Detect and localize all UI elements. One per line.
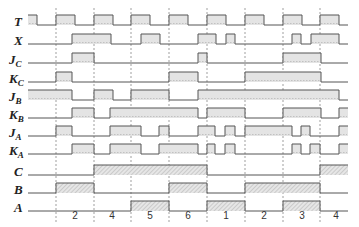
- signal-label-kb: KB: [8, 107, 24, 124]
- signal-label-b: B: [13, 182, 23, 197]
- state-label: 6: [185, 210, 191, 221]
- signal-label-x: X: [13, 33, 23, 48]
- state-label: 2: [261, 210, 267, 221]
- state-label: 5: [147, 210, 153, 221]
- signal-t: [28, 15, 348, 25]
- signal-kc: [28, 72, 348, 82]
- signal-label-t: T: [14, 14, 23, 29]
- signal-c: [28, 165, 348, 175]
- signal-ja: [28, 126, 348, 136]
- pulse-fill: [94, 165, 207, 175]
- pulse-fill: [245, 183, 320, 193]
- signal-label-ka: KA: [8, 143, 24, 160]
- signal-label-jc: JC: [8, 52, 23, 69]
- signal-jb: [28, 90, 348, 100]
- signal-label-a: A: [13, 200, 23, 215]
- signal-label-kc: KC: [8, 71, 25, 88]
- state-label: 3: [299, 210, 305, 221]
- signal-labels: TXJCKCJBKBJAKACBA: [8, 14, 25, 215]
- waveform: [28, 126, 348, 136]
- signal-label-c: C: [14, 164, 23, 179]
- state-label: 1: [223, 210, 229, 221]
- state-label: 2: [72, 210, 78, 221]
- signal-label-ja: JA: [8, 125, 22, 142]
- signal-ka: [28, 144, 348, 154]
- pulse-fill: [169, 183, 207, 193]
- state-label: 4: [333, 210, 339, 221]
- pulse-fill: [198, 34, 216, 44]
- signal-x: [28, 34, 348, 44]
- signal-b: [28, 183, 348, 193]
- timing-diagram: TXJCKCJBKBJAKACBA 24561234: [0, 0, 359, 227]
- signal-waveforms: [28, 15, 348, 211]
- state-label: 4: [109, 210, 115, 221]
- signal-kb: [28, 108, 348, 118]
- signal-jc: [28, 53, 348, 63]
- signal-label-jb: JB: [8, 89, 22, 106]
- pulse-fill: [320, 165, 348, 175]
- pulse-fill: [56, 183, 94, 193]
- state-number-labels: 24561234: [72, 210, 339, 221]
